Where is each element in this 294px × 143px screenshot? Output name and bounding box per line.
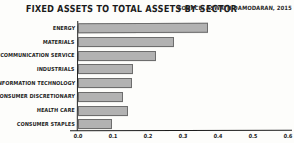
bar-row: TELECOMMUNICATION SERVICE [78, 49, 294, 63]
x-tick-label: 0.1 [108, 133, 117, 140]
bar-row: MATERIALS [78, 36, 294, 50]
bar-energy[interactable] [78, 23, 208, 33]
bar-row: HEALTH CARE [78, 104, 294, 118]
category-label: TELECOMMUNICATION SERVICE [0, 51, 75, 58]
bar-telecommunication-service[interactable] [78, 51, 156, 61]
x-axis-line [70, 130, 292, 132]
x-tick-label: 0.0 [73, 133, 82, 140]
category-label: HEALTH CARE [37, 106, 75, 113]
bar-information-technology[interactable] [78, 78, 132, 88]
x-tick-label: 0.3 [178, 133, 187, 140]
chart-source-note: SOURCE: ASWATH DAMODARAN, 2015 [178, 4, 292, 11]
category-label: CONSUMER STAPLES [17, 120, 75, 127]
category-label: CONSUMER DISCRETIONARY [0, 92, 75, 99]
category-label: MATERIALS [43, 38, 75, 45]
x-tick-label: 0.4 [213, 133, 222, 140]
x-tick-label: 0.5 [248, 133, 257, 140]
bar-industrials[interactable] [78, 64, 133, 74]
category-label: INDUSTRIALS [37, 65, 75, 72]
bar-row: INDUSTRIALS [78, 63, 294, 77]
category-label: INFORMATION TECHNOLOGY [0, 79, 75, 86]
x-tick-label: 0.6 [283, 133, 292, 140]
plot-area: ENERGY MATERIALS TELECOMMUNICATION SERVI… [0, 20, 294, 130]
bar-consumer-staples[interactable] [78, 119, 112, 129]
bar-health-care[interactable] [78, 105, 128, 115]
category-label: ENERGY [52, 24, 75, 31]
bar-row: CONSUMER DISCRETIONARY [78, 90, 294, 104]
bar-rows: ENERGY MATERIALS TELECOMMUNICATION SERVI… [78, 22, 294, 130]
bar-consumer-discretionary[interactable] [78, 92, 123, 102]
bar-materials[interactable] [78, 37, 174, 47]
bar-row: ENERGY [78, 22, 294, 36]
x-tick-label: 0.2 [143, 133, 152, 140]
chart-root: FIXED ASSETS TO TOTAL ASSETS BY SECTOR S… [0, 0, 294, 143]
bar-row: INFORMATION TECHNOLOGY [78, 77, 294, 91]
